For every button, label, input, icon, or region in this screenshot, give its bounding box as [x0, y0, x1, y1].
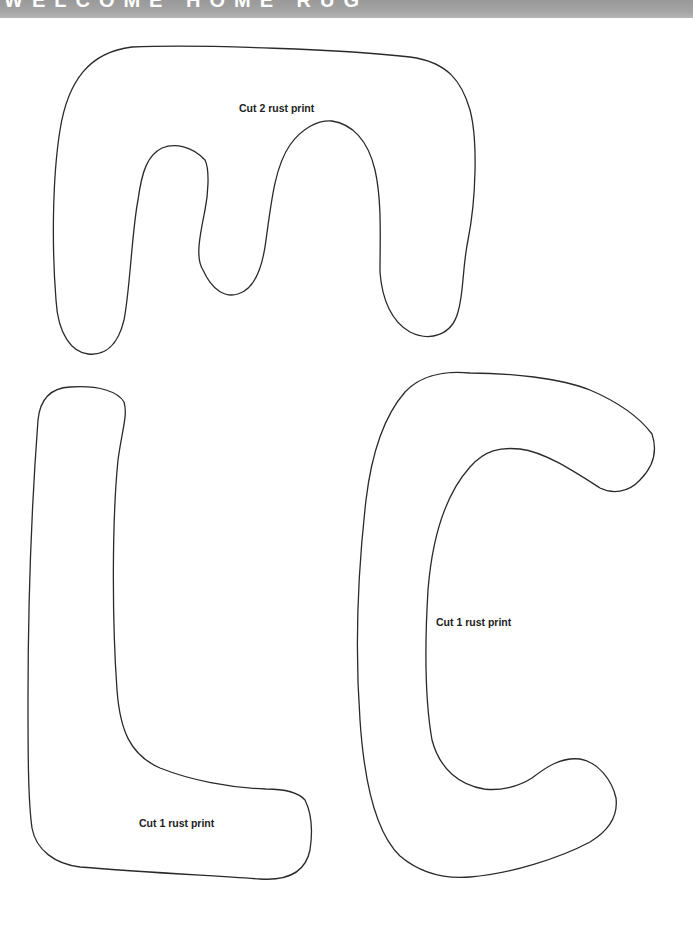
pattern-page: WELCOME HOME RUG Cut 2 rust print Cut 1 … — [0, 0, 693, 925]
piece-label-m: Cut 2 rust print — [239, 102, 314, 114]
piece-label-c: Cut 1 rust print — [436, 616, 511, 628]
piece-label-l: Cut 1 rust print — [139, 817, 214, 829]
pattern-pieces — [0, 0, 693, 925]
piece-outline-l — [28, 387, 311, 880]
piece-outline-m — [53, 46, 475, 354]
